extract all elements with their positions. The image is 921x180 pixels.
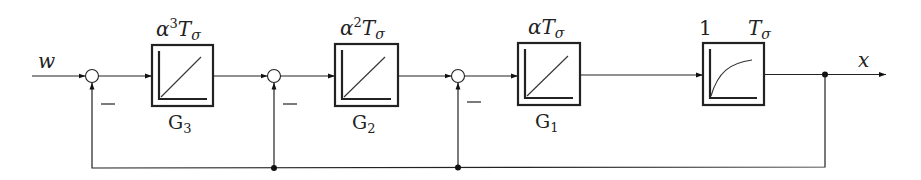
block-plant-pt1: 1 Tσ — [699, 16, 771, 105]
input-label: w — [38, 49, 55, 73]
block-g1-label: G1 — [535, 110, 558, 135]
plant-gain: 1 — [699, 16, 712, 40]
output-label: x — [858, 48, 869, 72]
plant-param: Tσ — [748, 16, 771, 42]
input-signal: w — [32, 49, 86, 76]
feedback-branch-point-1 — [271, 165, 277, 171]
block-g2-param: α2Tσ — [340, 15, 385, 42]
block-g3-param: α3Tσ — [156, 16, 201, 43]
block-g3: α3Tσ G3 — [152, 16, 213, 136]
block-diagram: w α3Tσ G3 α2Tσ G2 αTσ G1 — [0, 0, 921, 180]
summing-junction-2 — [268, 70, 298, 105]
summing-junction-3 — [452, 70, 482, 103]
output-signal: x — [764, 48, 886, 78]
block-g3-label: G3 — [168, 111, 191, 136]
block-g1: αTσ G1 — [518, 15, 580, 135]
block-g2: α2Tσ G2 — [335, 15, 398, 136]
block-g1-param: αTσ — [528, 15, 565, 41]
summing-junction-1 — [86, 70, 116, 105]
feedback-branch-point-2 — [455, 165, 461, 171]
block-g2-label: G2 — [352, 111, 375, 136]
